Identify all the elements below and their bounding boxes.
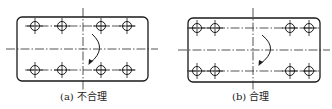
figure-b-reasonable-layout [178,8,330,90]
bolt-hole [207,20,223,36]
bolt-hole [119,62,135,78]
bolt-hole [27,62,43,78]
rotation-arc [260,35,271,64]
figure-a-unreasonable-layout [6,8,158,90]
bolt-hole [189,63,205,79]
bolt-hole [93,62,109,78]
bolt-hole [189,20,205,36]
arrowhead-icon [259,60,264,66]
bolt-hole [119,18,135,34]
bolt-hole [207,63,223,79]
bolt-hole [282,63,298,79]
bolt-hole [93,18,109,34]
caption-b: (b) 合理 [232,88,269,103]
arrowhead-icon [89,59,94,65]
bolt-hole [54,18,70,34]
bolt-hole [27,18,43,34]
diagram-canvas [0,0,332,109]
caption-a: (a) 不合理 [60,88,107,103]
rotation-arc [90,34,100,63]
bolt-hole [301,63,317,79]
bolt-hole [54,62,70,78]
bolt-hole [282,20,298,36]
bolt-hole [301,20,317,36]
